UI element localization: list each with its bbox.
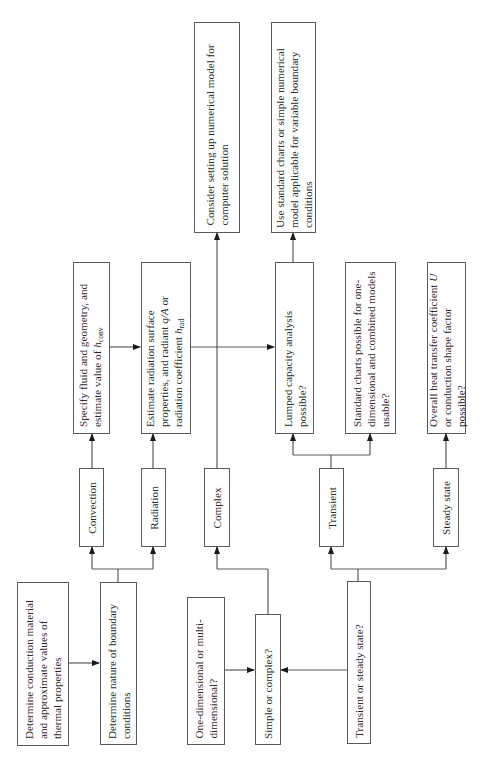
node-overall-coefficient-label: Overall heat transfer coefficient U or c… — [426, 269, 468, 427]
node-lumped-capacity-label: Lumped capacity analysis possible? — [281, 269, 309, 427]
node-boundary-conditions: Determine nature of boundary conditions — [100, 582, 137, 745]
flowchart-canvas: Consider setting up numerical model for … — [0, 0, 483, 784]
node-standard-or-numerical: Use standard charts or simple numerical … — [271, 22, 316, 233]
node-radiation: Radiation — [141, 468, 166, 547]
node-steady-state-label: Steady state — [439, 472, 453, 544]
node-lumped-capacity: Lumped capacity analysis possible? — [275, 262, 314, 434]
node-standard-charts: Standard charts possible for one-dimensi… — [345, 262, 396, 434]
node-radiation-label: Radiation — [147, 472, 161, 544]
node-specify-fluid: Specify fluid and geometry, and estimate… — [73, 262, 110, 434]
node-numerical-model: Consider setting up numerical model for … — [194, 22, 240, 233]
node-dimensionality-label: One-dimensional or multi-dimensional? — [192, 604, 220, 739]
node-complex-label: Complex — [210, 472, 224, 544]
node-overall-coefficient: Overall heat transfer coefficient U or c… — [427, 262, 466, 434]
node-boundary-conditions-label: Determine nature of boundary conditions — [105, 589, 133, 739]
node-conduction-material: Determine conduction material and approx… — [17, 582, 69, 746]
node-convection: Convection — [79, 468, 104, 547]
node-estimate-radiation: Estimate radiation surface properties, a… — [141, 262, 191, 434]
node-conduction-material-label: Determine conduction material and approx… — [22, 589, 64, 739]
node-dimensionality: One-dimensional or multi-dimensional? — [187, 597, 225, 745]
node-standard-charts-label: Standard charts possible for one-dimensi… — [350, 269, 392, 427]
node-transient: Transient — [319, 468, 344, 547]
node-simple-or-complex-label: Simple or complex? — [261, 621, 275, 739]
node-estimate-radiation-label: Estimate radiation surface properties, a… — [143, 269, 189, 427]
node-specify-fluid-label: Specify fluid and geometry, and estimate… — [76, 269, 108, 427]
node-numerical-model-label: Consider setting up numerical model for … — [203, 30, 231, 225]
node-complex: Complex — [204, 468, 230, 547]
node-transient-or-steady-label: Transient or steady state? — [352, 588, 366, 738]
node-transient-label: Transient — [325, 472, 339, 544]
node-simple-or-complex: Simple or complex? — [255, 614, 281, 745]
node-steady-state: Steady state — [433, 468, 459, 547]
node-transient-or-steady: Transient or steady state? — [347, 581, 371, 744]
node-standard-or-numerical-label: Use standard charts or simple numerical … — [273, 28, 315, 228]
node-convection-label: Convection — [85, 472, 99, 544]
